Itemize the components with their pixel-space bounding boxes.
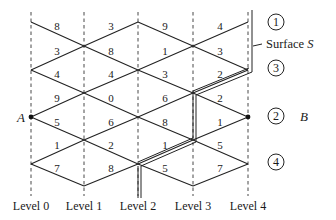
level-label: Level 0 (13, 199, 49, 213)
edge-weight: 2 (108, 139, 114, 151)
edge-weight: 9 (162, 20, 168, 32)
edge-weight: 6 (108, 116, 114, 128)
edge-weight: 9 (54, 92, 60, 104)
edge-weight: 7 (54, 162, 60, 174)
edge-weight: 8 (54, 20, 60, 32)
edge-weights: 8394381344329062568112157857 (54, 20, 223, 174)
graph-diagram: A B 8394381344329062568112157857 1324 Su… (0, 0, 336, 220)
edge-weight: 3 (108, 20, 114, 32)
edge-weight: 8 (108, 45, 114, 57)
edge-weight: 2 (217, 92, 223, 104)
edge-weight: 6 (162, 92, 168, 104)
edge-weight: 7 (217, 162, 223, 174)
edge-weight: 5 (162, 162, 168, 174)
edge-weight: 2 (217, 68, 223, 80)
edge-weight: 4 (54, 68, 60, 80)
edge-weight: 1 (162, 45, 168, 57)
edge-weight: 3 (54, 45, 60, 57)
level-label: Level 4 (230, 199, 266, 213)
edge-weight: 1 (217, 116, 223, 128)
edge-weight: 5 (54, 116, 60, 128)
region-number: 3 (273, 61, 279, 75)
edge-weight: 4 (217, 20, 223, 32)
node-a-label: A (16, 110, 25, 125)
node-b-label: B (300, 109, 308, 124)
surface-s-label-text: Surface (266, 37, 307, 51)
surface-s-label: Surface S (266, 37, 314, 51)
edge-weight: 1 (162, 139, 168, 151)
node-a-dot (29, 115, 34, 120)
level-lines (31, 12, 248, 196)
edge-weight: 5 (217, 139, 223, 151)
edge-weight: 1 (54, 139, 60, 151)
surface-s-label-var: S (307, 37, 314, 51)
edge-weight: 3 (217, 45, 223, 57)
node-b-dot (246, 115, 251, 120)
region-number: 2 (273, 109, 279, 123)
surface-s (138, 10, 262, 198)
region-number: 4 (273, 155, 279, 169)
edge-weight: 3 (162, 68, 168, 80)
edge-weight: 0 (108, 92, 114, 104)
level-labels: Level 0Level 1Level 2Level 3Level 4 (13, 199, 266, 213)
surface-s-line-outer (141, 10, 252, 198)
level-label: Level 2 (120, 199, 156, 213)
edge-weight: 4 (108, 68, 114, 80)
region-number: 1 (273, 15, 279, 29)
surface-s-line-inner (138, 68, 249, 162)
surface-leader-line (253, 44, 262, 46)
edge-weight: 8 (108, 162, 114, 174)
level-label: Level 1 (66, 199, 102, 213)
edge-weight: 8 (162, 116, 168, 128)
level-label: Level 3 (175, 199, 211, 213)
